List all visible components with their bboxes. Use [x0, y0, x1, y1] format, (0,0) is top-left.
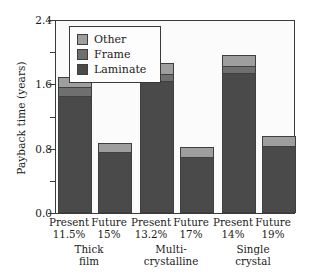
x-group-label-singlecrystal: Single crystal [208, 243, 298, 267]
legend-swatch-laminate-icon [77, 64, 88, 75]
y-tick-major-0.8 [48, 149, 55, 150]
bar-segment-laminate [140, 81, 174, 213]
bar-segment-laminate [262, 146, 296, 213]
x-group-line1: Multi- [125, 243, 217, 255]
legend-item-frame: Frame [77, 47, 154, 62]
bar-segment-laminate [222, 73, 256, 213]
y-tick-label-0.8: 0.8 [12, 144, 52, 155]
x-group-line1: Thick [44, 243, 134, 255]
bar-thick-film-future [98, 143, 132, 213]
x-tick-name: Future [243, 216, 303, 228]
y-tick-label-1.6: 1.6 [12, 79, 52, 90]
legend-item-laminate: Laminate [77, 62, 154, 77]
x-group-label-multicrystalline: Multi- crystalline [125, 243, 217, 267]
bar-singlecrystal-future [262, 136, 296, 213]
bar-singlecrystal-present [222, 55, 256, 213]
x-group-line2: crystal [208, 255, 298, 267]
bar-segment-laminate [98, 152, 132, 213]
bar-multicrystalline-present [140, 63, 174, 213]
x-group-label-thick-film: Thick film [44, 243, 134, 267]
bar-segment-laminate [58, 96, 92, 213]
y-axis-title: Payback time (years) [15, 33, 27, 203]
bar-multicrystalline-future [180, 147, 214, 213]
y-tick-label-2.4: 2.4 [12, 15, 52, 26]
y-tick-major-2.4 [48, 20, 55, 21]
x-group-line1: Single [208, 243, 298, 255]
legend: Other Frame Laminate [69, 26, 161, 83]
legend-label-frame: Frame [94, 49, 130, 60]
y-tick-major-1.6 [48, 84, 55, 85]
x-group-line2: crystalline [125, 255, 217, 267]
legend-label-other: Other [94, 34, 126, 45]
bar-segment-laminate [180, 157, 214, 213]
x-group-line2: film [44, 255, 134, 267]
y-tick-major-0.0 [48, 213, 55, 214]
x-tick-efficiency: 19% [243, 228, 303, 240]
chart-figure: Payback time (years) 2.4 1.6 0.8 0.0 [0, 0, 312, 276]
legend-label-laminate: Laminate [94, 64, 146, 75]
legend-swatch-frame-icon [77, 49, 88, 60]
x-tick-label-singlecrystal-future: Future 19% [243, 216, 303, 240]
legend-swatch-other-icon [77, 34, 88, 45]
bar-thick-film-present [58, 77, 92, 213]
legend-item-other: Other [77, 32, 154, 47]
